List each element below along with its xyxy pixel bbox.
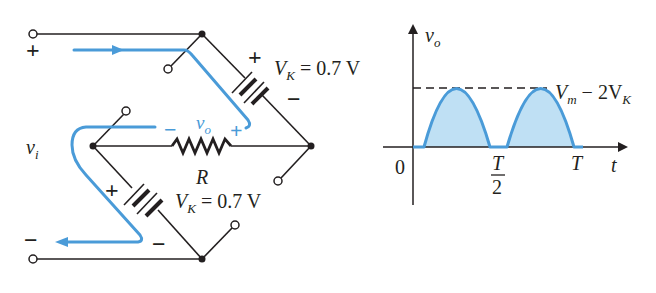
diode-bottom <box>124 184 162 216</box>
output-waveform <box>383 24 628 205</box>
period-label: T <box>571 152 584 174</box>
half-period-denominator: 2 <box>492 176 502 198</box>
input-plus-label: + <box>26 37 40 63</box>
x-axis-arrow-icon <box>618 142 628 152</box>
y-axis-arrow-icon <box>408 24 418 34</box>
input-voltage-label: vi <box>26 136 39 162</box>
switch-terminal-right <box>274 177 282 185</box>
arrow-right-icon <box>112 45 124 55</box>
input-terminal-bottom <box>29 255 37 263</box>
figure: + − vi R vo − + + − VK = 0.7 V + − VK = … <box>0 0 656 293</box>
origin-label: 0 <box>395 156 405 178</box>
arrow-left-icon <box>55 237 68 247</box>
diode-top-minus: − <box>287 86 301 112</box>
diode-bottom-plus: + <box>105 177 119 203</box>
diode-top <box>232 72 268 104</box>
input-minus-label: − <box>24 227 38 253</box>
resistor <box>172 139 231 153</box>
output-plus-label: + <box>230 118 243 143</box>
current-path-top <box>74 50 250 128</box>
switch-terminal-left <box>122 107 130 115</box>
diode-top-voltage-label: VK = 0.7 V <box>274 57 361 83</box>
resistor-label: R <box>195 166 208 188</box>
peak-label: Vm − 2VK <box>555 81 632 107</box>
half-period-numerator: T <box>492 152 505 174</box>
diode-bottom-minus: − <box>152 231 166 257</box>
output-voltage-label: vo <box>196 112 211 137</box>
switch-terminal-top <box>164 65 172 73</box>
diode-bottom-voltage-label: VK = 0.7 V <box>175 190 262 216</box>
y-axis-label: vo <box>425 24 441 50</box>
diode-top-plus: + <box>248 44 262 70</box>
output-minus-label: − <box>164 117 177 142</box>
switch-terminal-bottom <box>231 221 239 229</box>
x-axis-label: t <box>611 154 617 176</box>
